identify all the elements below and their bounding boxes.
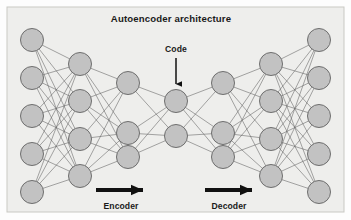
network-node-input-layer [21,29,44,52]
decoder-label: Decoder [211,201,247,211]
network-node-input-layer [21,67,44,90]
code-label: Code [165,44,187,54]
network-node-encoder-hidden-1 [69,128,92,151]
network-node-decoder-hidden-1 [212,122,235,145]
network-node-encoder-hidden-2 [117,122,140,145]
encoder-label: Encoder [103,201,139,211]
network-node-decoder-hidden-2 [260,90,283,113]
network-node-code-layer [165,125,188,148]
network-node-output-layer [308,105,331,128]
network-node-encoder-hidden-1 [69,165,92,188]
autoencoder-figure: Autoencoder architecture Code Encoder De… [0,0,351,220]
autoencoder-diagram: Autoencoder architecture Code Encoder De… [0,0,351,220]
network-node-encoder-hidden-2 [117,146,140,169]
network-node-input-layer [21,143,44,166]
network-node-code-layer [165,90,188,113]
network-node-encoder-hidden-2 [117,72,140,95]
network-node-input-layer [21,105,44,128]
network-node-decoder-hidden-1 [212,146,235,169]
network-node-decoder-hidden-1 [212,72,235,95]
network-node-encoder-hidden-1 [69,90,92,113]
network-node-output-layer [308,67,331,90]
network-node-decoder-hidden-2 [260,128,283,151]
network-node-input-layer [21,181,44,204]
network-node-output-layer [308,181,331,204]
network-node-encoder-hidden-1 [69,53,92,76]
network-node-decoder-hidden-2 [260,53,283,76]
network-node-output-layer [308,143,331,166]
page-title: Autoencoder architecture [111,13,231,24]
network-node-decoder-hidden-2 [260,165,283,188]
network-node-output-layer [308,29,331,52]
